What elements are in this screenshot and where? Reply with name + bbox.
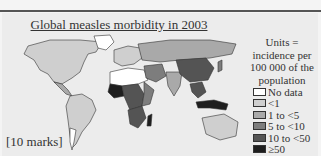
units-note: Units = incidence per 100 000 of the pop… (246, 36, 318, 86)
legend-label: <1 (268, 97, 280, 109)
legend-item: ≥50 (253, 144, 310, 156)
region-north-america (24, 40, 102, 84)
legend-swatch-5-10 (253, 122, 266, 130)
legend-label: 10 to <50 (268, 132, 310, 144)
region-europe (114, 46, 142, 66)
legend-swatch-ge50 (253, 145, 266, 153)
region-east-africa (142, 82, 154, 106)
region-australia (202, 114, 238, 140)
region-russia (138, 40, 236, 62)
legend-swatch-no-data (253, 88, 266, 96)
region-china (176, 58, 214, 82)
region-north-africa (110, 68, 148, 86)
region-southeast-asia (190, 82, 206, 98)
map-legend: No data <1 1 to <5 5 to <10 10 to <50 ≥5… (253, 86, 310, 155)
legend-item: 10 to <50 (253, 132, 310, 144)
top-rule (0, 10, 321, 12)
region-india (166, 72, 182, 96)
legend-item: <1 (253, 98, 310, 110)
legend-label: ≥50 (268, 143, 285, 155)
legend-label: No data (268, 86, 303, 98)
legend-item: 5 to <10 (253, 121, 310, 133)
region-indonesia (196, 100, 228, 110)
legend-swatch-lt1 (253, 99, 266, 107)
legend-swatch-1-5 (253, 111, 266, 119)
legend-label: 5 to <10 (268, 120, 305, 132)
region-central-america (54, 82, 72, 96)
map-title: Global measles morbidity in 2003 (0, 17, 238, 33)
region-west-africa (108, 84, 124, 98)
legend-swatch-10-50 (253, 134, 266, 142)
region-madagascar (147, 114, 152, 126)
legend-item: No data (253, 86, 310, 98)
region-japan (218, 60, 222, 72)
legend-label: 1 to <5 (268, 109, 299, 121)
region-southern-africa (128, 106, 146, 128)
marks-label: [10 marks] (6, 134, 63, 150)
legend-item: 1 to <5 (253, 109, 310, 121)
